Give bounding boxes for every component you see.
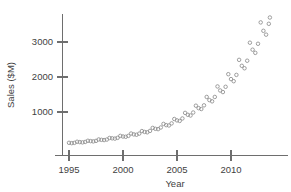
data-point: [243, 67, 247, 71]
y-axis-title: Sales ($M): [5, 62, 16, 108]
data-point: [256, 42, 260, 46]
x-axis-title: Year: [165, 178, 184, 189]
data-point: [267, 22, 271, 26]
x-tick-label: 1995: [58, 164, 79, 175]
data-point: [259, 21, 263, 25]
data-point: [268, 16, 272, 20]
data-point-layer: [67, 16, 271, 145]
y-tick-label: 2000: [32, 71, 53, 82]
data-point: [232, 79, 236, 83]
data-point: [254, 51, 257, 55]
chart-canvas: 100020003000 1995200020052010 Year Sales…: [0, 0, 291, 192]
x-tick-layer: 1995200020052010: [58, 150, 241, 175]
x-tick-label: 2000: [112, 164, 133, 175]
data-point: [224, 85, 228, 89]
data-point: [213, 95, 217, 99]
data-point: [264, 33, 268, 37]
data-point: [205, 95, 209, 99]
data-point: [237, 58, 241, 62]
data-point: [245, 59, 249, 63]
data-point: [170, 122, 174, 126]
data-point: [262, 29, 266, 33]
data-point: [216, 85, 220, 89]
y-tick-label: 1000: [32, 106, 53, 117]
x-tick-label: 2010: [220, 164, 241, 175]
scatter-chart-figure: 100020003000 1995200020052010 Year Sales…: [0, 0, 291, 192]
data-point: [191, 111, 195, 115]
data-point: [227, 72, 231, 76]
data-point: [251, 48, 255, 52]
data-point: [159, 126, 163, 130]
data-point: [202, 104, 206, 108]
x-tick-label: 2005: [166, 164, 187, 175]
axis-layer: [55, 14, 288, 156]
data-point: [248, 41, 252, 45]
y-tick-label: 3000: [32, 36, 53, 47]
data-point: [181, 117, 185, 121]
data-point: [235, 73, 239, 77]
